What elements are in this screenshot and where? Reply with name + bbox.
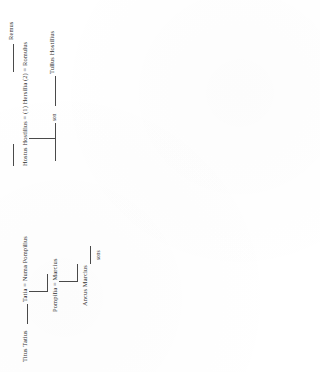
union-label: Hostus Hostilius = (1) Hersilia (2) = Ro… (21, 42, 28, 166)
connector-marcius-descender (59, 281, 77, 282)
connector-son-left (55, 123, 56, 161)
node-hostilius-hersilia-romulus-union: Hostus Hostilius = (1) Hersilia (2) = Ro… (22, 42, 28, 166)
node-ancus-marcius-label: Ancus Marcius (81, 265, 88, 306)
node-sons: sons (96, 250, 101, 260)
node-tullus-hostilius: Tullus Hostilius (49, 31, 55, 74)
connector-son-right (55, 76, 56, 106)
node-titus-tatius: Titus Tatius (22, 330, 28, 362)
node-remus-label: Remus (7, 21, 14, 40)
node-ancus-marcius: Ancus Marcius (82, 265, 88, 306)
tatia-numa-label: Tatia = Numa Pompilius (21, 236, 28, 302)
connector-ancus-to-sons (90, 246, 91, 264)
node-son-label: son (51, 114, 57, 122)
connector-numa-descender (29, 291, 47, 292)
connector-top-bracket (13, 144, 14, 166)
node-pompilia-marcius-union: Pompilia = Marcius (52, 258, 58, 312)
node-tullus-hostilius-label: Tullus Hostilius (48, 31, 55, 74)
genealogy-chart: Remus Hostus Hostilius = (1) Hersilia (2… (0, 0, 142, 372)
pompilia-marcius-label: Pompilia = Marcius (51, 258, 58, 312)
rotated-page-canvas: Remus Hostus Hostilius = (1) Hersilia (2… (0, 0, 142, 372)
node-titus-tatius-label: Titus Tatius (21, 330, 28, 362)
node-tatia-numa-union: Tatia = Numa Pompilius (22, 236, 28, 302)
connector-remus-horizontal (13, 44, 14, 72)
node-sons-label: sons (95, 250, 101, 260)
connector-to-pompilia (47, 274, 48, 292)
connector-union-descender (29, 138, 55, 139)
node-remus: Remus (8, 21, 14, 40)
connector-to-ancus (77, 264, 78, 282)
connector-tatius-to-tatia (27, 304, 28, 324)
node-son: son (52, 114, 57, 122)
